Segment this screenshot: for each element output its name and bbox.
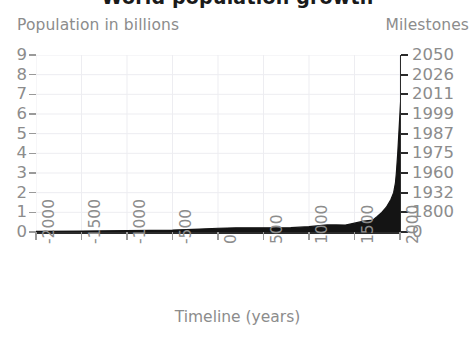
y-axis-left-tick — [29, 212, 36, 213]
x-axis-tick-label: 1500 — [361, 205, 377, 244]
y-axis-left-tick-label: 5 — [0, 126, 27, 143]
y-axis-right-tick — [401, 113, 408, 115]
x-axis-tick — [81, 232, 83, 240]
y-axis-left-tick-label: 0 — [0, 224, 27, 241]
y-axis-left-tick-label: 8 — [0, 67, 27, 84]
x-axis-tick-label: 500 — [270, 214, 286, 244]
x-axis-tick — [263, 232, 265, 240]
milestone-year-label: 2026 — [412, 67, 454, 84]
x-axis-tick-label: -2000 — [42, 199, 58, 244]
x-axis-title: Timeline (years) — [0, 308, 475, 326]
y-axis-right-spine — [400, 55, 402, 233]
chart-figure: World population growth Population in bi… — [0, 0, 475, 341]
y-axis-left-tick-label: 3 — [0, 165, 27, 182]
y-axis-left-title: Population in billions — [17, 16, 179, 34]
x-axis-tick-label: -500 — [179, 209, 195, 244]
y-axis-left-tick — [29, 153, 36, 154]
y-axis-left-tick — [29, 172, 36, 173]
y-axis-right-tick — [401, 74, 408, 76]
x-axis-tick — [399, 232, 401, 240]
x-axis-tick — [172, 232, 174, 240]
x-axis-tick-label: -1000 — [133, 199, 149, 244]
y-axis-right-tick — [401, 93, 408, 95]
y-axis-left-tick-label: 6 — [0, 106, 27, 123]
x-axis-tick — [35, 232, 37, 240]
y-axis-right-tick — [401, 54, 408, 56]
x-axis-tick-label: 0 — [224, 234, 240, 244]
y-axis-left-tick-label: 9 — [0, 47, 27, 64]
y-axis-left-tick-label: 4 — [0, 145, 27, 162]
milestone-year-label: 1999 — [412, 106, 454, 123]
x-axis-tick — [354, 232, 356, 240]
y-axis-left-tick-label: 1 — [0, 204, 27, 221]
y-axis-right-tick — [401, 192, 408, 194]
y-axis-left-tick — [29, 113, 36, 114]
y-axis-left-tick — [29, 133, 36, 134]
milestone-year-label: 2011 — [412, 86, 454, 103]
x-axis-tick — [308, 232, 310, 240]
x-axis-tick-label: -1500 — [88, 199, 104, 244]
milestone-year-label: 1975 — [412, 145, 454, 162]
x-axis-tick-label: 1000 — [315, 205, 331, 244]
y-axis-left-tick — [29, 94, 36, 95]
y-axis-left-tick-label: 2 — [0, 185, 27, 202]
y-axis-left-tick — [29, 192, 36, 193]
y-axis-left-tick — [29, 74, 36, 75]
milestone-year-label: 1987 — [412, 126, 454, 143]
y-axis-left-tick — [29, 54, 36, 55]
y-axis-right-tick — [401, 172, 408, 174]
milestone-year-label: 2050 — [412, 47, 454, 64]
x-axis-tick — [217, 232, 219, 240]
y-axis-left-tick-label: 7 — [0, 86, 27, 103]
chart-title: World population growth — [0, 0, 475, 8]
milestone-year-label: 1960 — [412, 165, 454, 182]
y-axis-right-title: Milestones — [385, 16, 469, 34]
y-axis-right-tick — [401, 152, 408, 154]
milestone-year-label: 1932 — [412, 185, 454, 202]
y-axis-right-tick — [401, 133, 408, 135]
x-axis-tick — [126, 232, 128, 240]
x-axis-tick-label: 2000 — [406, 205, 422, 244]
